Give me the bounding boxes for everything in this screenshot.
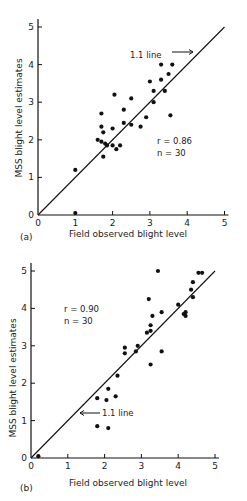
data-point [129, 96, 133, 100]
y-tick-label: 3 [28, 97, 34, 107]
y-tick-label: 2 [28, 135, 34, 145]
chart-panel-a: 012345012345 (a) Field observed blight l… [0, 0, 247, 250]
one-to-one-line [31, 271, 215, 458]
y-tick-label: 5 [28, 22, 34, 32]
data-point [118, 143, 122, 147]
data-point [170, 63, 174, 67]
y-tick-label: 0 [21, 453, 27, 463]
data-point [166, 72, 170, 76]
y-tick-label: 1 [21, 416, 27, 426]
y-axis-label-a: MSS blight level estimates [14, 58, 24, 177]
x-tick-label: 4 [175, 461, 181, 471]
data-point [99, 111, 103, 115]
y-tick-label: 0 [28, 210, 34, 220]
data-point [168, 113, 172, 117]
data-point [147, 297, 151, 301]
panel-tag-a: (a) [20, 232, 33, 242]
data-point [200, 271, 204, 275]
data-point [159, 63, 163, 67]
data-point [95, 396, 99, 400]
data-point [114, 147, 118, 151]
data-point [176, 303, 180, 307]
scatter-plot-a: 012345012345 (a) Field observed blight l… [0, 0, 247, 250]
data-point [105, 143, 109, 147]
reference-line-label-b: 1.1 line [102, 408, 134, 418]
data-point [115, 374, 119, 378]
x-tick-label: 5 [222, 218, 228, 228]
data-point [136, 344, 140, 348]
y-tick-label: 1 [28, 172, 34, 182]
data-point [191, 280, 195, 284]
data-point [96, 138, 100, 142]
data-point [122, 121, 126, 125]
x-tick-label: 3 [139, 461, 145, 471]
data-point [159, 78, 163, 82]
data-point [129, 123, 133, 127]
r-value-b: r = 0.90 [64, 304, 99, 314]
y-tick-label: 4 [21, 303, 27, 313]
reference-line-label-a: 1.1 line [130, 50, 162, 60]
x-tick-label: 1 [72, 218, 78, 228]
data-point [191, 295, 195, 299]
n-value-b: n = 30 [64, 316, 93, 326]
data-point [106, 387, 110, 391]
data-point [156, 269, 160, 273]
data-point [160, 310, 164, 314]
data-point [111, 143, 115, 147]
data-point [73, 168, 77, 172]
x-tick-label: 2 [102, 461, 108, 471]
y-tick-label: 4 [28, 60, 34, 70]
data-point [149, 329, 153, 333]
x-tick-label: 0 [35, 218, 41, 228]
data-point [73, 211, 77, 215]
data-point [149, 362, 153, 366]
data-point [36, 454, 40, 458]
x-axis-label-b: Field observed blight level [69, 478, 187, 488]
data-point [152, 100, 156, 104]
data-point [163, 89, 167, 93]
x-tick-label: 2 [110, 218, 116, 228]
scatter-plot-b: 012345012345 (b) Field observed blight l… [0, 250, 247, 501]
x-tick-label: 0 [28, 461, 34, 471]
data-point [114, 394, 118, 398]
r-value-a: r = 0.86 [157, 136, 192, 146]
data-point [106, 426, 110, 430]
data-point [150, 314, 154, 318]
plot-area-a: 012345012345 [28, 19, 228, 228]
data-point [123, 346, 127, 350]
data-point [152, 89, 156, 93]
y-tick-label: 5 [21, 266, 27, 276]
data-point [183, 314, 187, 318]
data-point [99, 140, 103, 144]
y-tick-label: 2 [21, 378, 27, 388]
data-point [189, 288, 193, 292]
x-tick-label: 1 [65, 461, 71, 471]
data-point [123, 351, 127, 355]
data-point [101, 155, 105, 159]
data-point [122, 108, 126, 112]
x-axis-label-a: Field observed blight level [69, 229, 187, 239]
panel-tag-b: (b) [20, 483, 33, 493]
data-point [95, 424, 99, 428]
data-point [111, 126, 115, 130]
y-axis-label-b: MSS blight level estimates [8, 318, 18, 437]
x-tick-label: 5 [212, 461, 218, 471]
data-point [145, 331, 149, 335]
data-point [144, 115, 148, 119]
data-point [134, 349, 138, 353]
data-point [183, 310, 187, 314]
chart-panel-b: 012345012345 (b) Field observed blight l… [0, 250, 247, 501]
data-point [104, 398, 108, 402]
y-tick-label: 3 [21, 341, 27, 351]
data-point [99, 125, 103, 129]
data-point [148, 79, 152, 83]
data-point [101, 130, 105, 134]
data-point [196, 271, 200, 275]
data-point [112, 93, 116, 97]
x-tick-label: 4 [184, 218, 190, 228]
data-point [160, 349, 164, 353]
n-value-a: n = 30 [157, 148, 186, 158]
data-point [149, 323, 153, 327]
plot-area-b: 012345012345 [21, 263, 219, 471]
data-point [138, 125, 142, 129]
